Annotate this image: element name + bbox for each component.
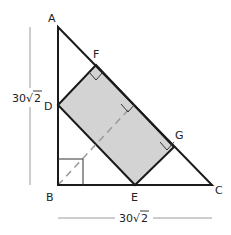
svg-text:30: 30 (12, 92, 26, 105)
point-label-d: D (44, 100, 52, 113)
svg-text:30: 30 (119, 212, 133, 225)
point-label-e: E (131, 191, 138, 204)
bottom-dimension-label: 30 √ 2 (119, 211, 149, 225)
point-label-c: C (215, 184, 223, 197)
svg-text:√: √ (133, 212, 141, 225)
svg-text:√: √ (26, 92, 34, 105)
svg-text:2: 2 (141, 212, 148, 225)
point-label-g: G (175, 129, 184, 142)
svg-text:2: 2 (34, 92, 41, 105)
left-dimension-label: 30 √ 2 (12, 91, 42, 105)
point-label-f: F (93, 48, 99, 61)
geometry-diagram: 30 √ 2 30 √ 2 A B C D E F G (0, 0, 231, 235)
point-label-b: B (46, 191, 54, 204)
point-label-a: A (48, 12, 56, 25)
